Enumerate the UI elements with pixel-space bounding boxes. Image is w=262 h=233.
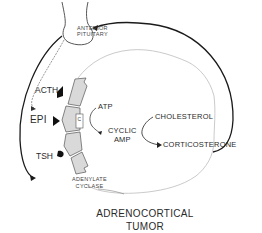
cholesterol-to-corticosterone-arrow (142, 117, 160, 145)
label-atp: ATP (98, 103, 113, 111)
arrowhead-acth (31, 106, 36, 111)
title-line-1: ADRENOCORTICAL (90, 207, 200, 220)
label-adenylate-cyclase: ADENYLATE CYCLASE (72, 177, 107, 189)
label-corticosterone: CORTICOSTERONE (163, 141, 237, 149)
title-line-2: TUMOR (90, 220, 200, 233)
pituitary-line: PITUITARY (77, 32, 108, 38)
arrowhead-corticosterone (157, 142, 162, 148)
atp-to-camp-arrow (90, 108, 100, 134)
label-anterior-pituitary: ANTERIOR PITUITARY (77, 26, 108, 37)
tumor-cell-outline (78, 50, 215, 194)
label-acth: ACTH (35, 86, 58, 95)
anterior-pituitary-shape (62, 2, 93, 45)
label-tsh: TSH (36, 152, 53, 161)
arrowhead-tsh (30, 175, 36, 181)
label-c-unit: C (78, 117, 82, 122)
tsh-hormone-icon (57, 151, 64, 157)
cyclase-line: CYCLASE (72, 184, 107, 190)
label-epi: EPI (30, 115, 47, 125)
cyclic-line: CYCLIC (108, 127, 137, 135)
epi-hormone-icon (53, 116, 60, 126)
adenylate-line: ADENYLATE (72, 177, 107, 183)
label-cholesterol: CHOLESTEROL (155, 113, 213, 121)
label-cyclic-amp: CYCLIC AMP (108, 127, 137, 143)
amp-line: AMP (108, 136, 137, 144)
membrane-receptors (62, 78, 88, 174)
diagram-title: ADRENOCORTICAL TUMOR (90, 207, 200, 233)
